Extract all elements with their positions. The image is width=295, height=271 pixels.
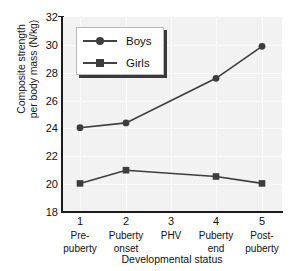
boys-data-point: [259, 43, 266, 50]
boys-data-point: [213, 75, 220, 82]
legend-shadow-right: [164, 30, 167, 78]
legend-label: Boys: [126, 35, 152, 47]
circle-marker-icon: [83, 35, 117, 47]
girls-series-line: [80, 170, 262, 183]
legend-shadow-bottom: [79, 75, 167, 78]
square-marker-icon: [83, 57, 117, 69]
legend-entry-girls: Girls: [77, 52, 163, 74]
chart-figure: Composite strength per body mass (N/kg) …: [0, 0, 295, 271]
girls-data-point: [123, 167, 130, 174]
legend-label: Girls: [126, 57, 150, 69]
x-tick-label: 5: [231, 214, 293, 228]
boys-data-point: [123, 120, 130, 127]
chart-legend: Boys Girls: [76, 27, 164, 75]
girls-data-point: [259, 180, 266, 187]
x-category-label-line: Post-: [231, 230, 293, 243]
girls-data-point: [213, 173, 220, 180]
boys-data-point: [77, 124, 84, 131]
legend-entry-boys: Boys: [77, 30, 163, 52]
girls-data-point: [77, 180, 84, 187]
x-axis-title: Developmental status: [62, 253, 282, 265]
x-tick-group: 5 Post- puberty: [231, 214, 293, 255]
